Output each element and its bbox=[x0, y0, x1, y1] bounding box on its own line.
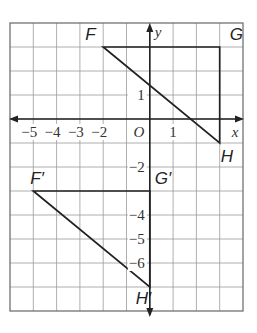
vertex-label-h: H bbox=[221, 147, 234, 166]
y-axis-label: y bbox=[153, 24, 162, 40]
x-tick-label: −3 bbox=[68, 124, 84, 140]
x-axis-label: x bbox=[231, 124, 239, 140]
y-tick-label: −2 bbox=[129, 159, 145, 175]
coordinate-plane-diagram: −5−4−3−211−2−4−5−6OxyFGHF′G′H′ bbox=[0, 0, 257, 333]
x-tick-label: 1 bbox=[169, 124, 177, 140]
vertex-label-g-prime: G′ bbox=[155, 169, 172, 188]
y-tick-label: −5 bbox=[129, 231, 145, 247]
y-tick-label: −6 bbox=[129, 255, 145, 271]
origin-label: O bbox=[133, 124, 144, 140]
vertex-label-f-prime: F′ bbox=[30, 169, 44, 188]
y-tick-label: −4 bbox=[129, 207, 145, 223]
y-tick-label: 1 bbox=[137, 87, 145, 103]
y-axis-arrow-up-icon bbox=[146, 23, 153, 32]
x-tick-label: −2 bbox=[91, 124, 107, 140]
labels: −5−4−3−211−2−4−5−6OxyFGHF′G′H′ bbox=[21, 24, 243, 308]
y-axis-arrow-down-icon bbox=[146, 308, 153, 317]
vertex-label-g: G bbox=[230, 25, 243, 44]
x-tick-label: −4 bbox=[45, 124, 61, 140]
x-tick-label: −5 bbox=[21, 124, 37, 140]
vertex-label-f: F bbox=[85, 25, 97, 44]
vertex-label-h-prime: H′ bbox=[136, 289, 152, 308]
